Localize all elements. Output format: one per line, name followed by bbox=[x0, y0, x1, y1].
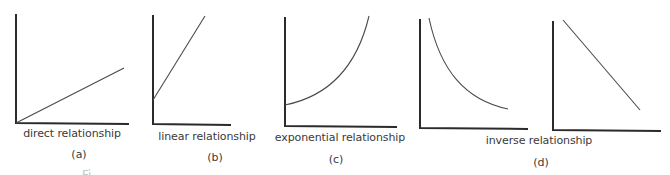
panel-c-tag: (c) bbox=[329, 153, 344, 166]
panel-b-linear bbox=[153, 16, 230, 125]
panel-d-inverse-line bbox=[553, 20, 660, 131]
panel-a-axes bbox=[16, 15, 128, 124]
panel-d-tag: (d) bbox=[533, 156, 549, 169]
panel-d-inverse-curve bbox=[420, 18, 527, 129]
panel-d-right-axes bbox=[553, 22, 660, 131]
figure-caption-clipped: Fi bbox=[82, 167, 91, 175]
panel-d-title: inverse relationship bbox=[486, 134, 592, 147]
panel-c-axes bbox=[285, 18, 396, 127]
panel-a-direct bbox=[16, 15, 128, 124]
panel-b-title: linear relationship bbox=[158, 130, 255, 143]
panel-d-left-axes bbox=[420, 20, 527, 129]
panel-b-axes bbox=[153, 16, 230, 125]
panel-b-line bbox=[153, 16, 205, 100]
panel-a-tag: (a) bbox=[71, 148, 86, 161]
panel-a-line bbox=[16, 68, 124, 123]
panel-a-title: direct relationship bbox=[23, 127, 121, 140]
panel-d-left-curve bbox=[429, 18, 508, 109]
relationship-graphs-figure bbox=[0, 0, 670, 175]
panel-c-curve bbox=[285, 16, 369, 105]
panel-b-tag: (b) bbox=[207, 151, 223, 164]
panel-d-right-line bbox=[563, 20, 640, 110]
panel-c-exponential bbox=[285, 16, 396, 127]
panel-c-title: exponential relationship bbox=[275, 131, 405, 144]
